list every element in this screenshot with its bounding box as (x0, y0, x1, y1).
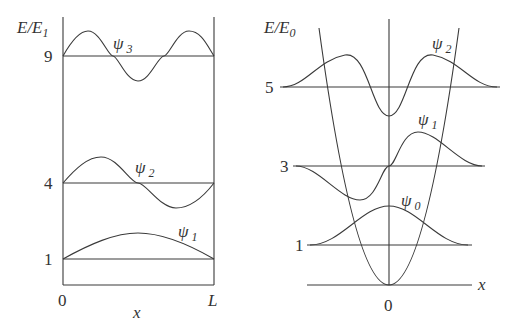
energy-level-diagram: E/E1 9 4 1 ψ3 ψ2 ψ1 0 L x E/E0 5 3 1 ψ2 … (0, 0, 508, 328)
left-x-tick-L: L (207, 291, 217, 310)
left-y-axis-label: E/E1 (16, 18, 49, 40)
psi1-label: ψ1 (178, 222, 198, 244)
psi2-label: ψ2 (135, 158, 155, 180)
square-well-panel: E/E1 9 4 1 ψ3 ψ2 ψ1 0 L x (16, 17, 217, 322)
harmonic-oscillator-panel: E/E0 5 3 1 ψ2 ψ1 ψ0 0 x (263, 18, 500, 315)
left-x-axis-label: x (132, 303, 141, 322)
left-x-tick-0: 0 (58, 291, 67, 310)
psi2-ho-wavefunction (283, 55, 497, 116)
right-level-1-label: 1 (295, 236, 304, 255)
left-level-4-label: 4 (44, 174, 53, 193)
psi0-ho-label: ψ0 (401, 191, 421, 213)
right-x-tick-0: 0 (384, 296, 393, 315)
left-level-1-label: 1 (44, 250, 53, 269)
psi3-label: ψ3 (113, 34, 133, 56)
right-level-5-label: 5 (265, 78, 274, 97)
psi1-ho-label: ψ1 (418, 110, 438, 132)
psi2-ho-label: ψ2 (432, 34, 452, 56)
right-y-axis-label: E/E0 (263, 18, 296, 40)
right-x-axis-label: x (477, 275, 486, 294)
right-level-3-label: 3 (280, 157, 289, 176)
left-level-9-label: 9 (44, 47, 53, 66)
